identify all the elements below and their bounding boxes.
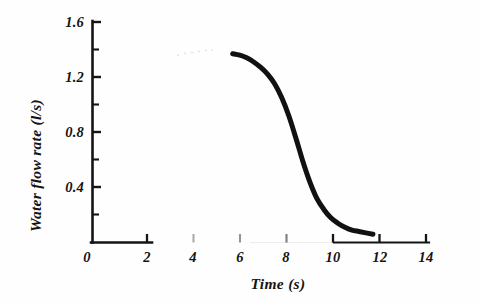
x-tick-label-12: 12: [373, 249, 388, 266]
y-axis-line-group: [93, 21, 102, 243]
y-tick-label-1.6: 1.6: [40, 14, 84, 31]
y-tick-label-1.2: 1.2: [40, 69, 84, 86]
x-tick-label-6: 6: [236, 249, 243, 266]
y-axis-title: Water flow rate (l/s): [27, 99, 45, 232]
scan-artifact-speckle: [177, 49, 213, 56]
x-tick-label-0: 0: [83, 249, 90, 266]
x-tick-label-4: 4: [189, 249, 196, 266]
x-tick-label-2: 2: [143, 249, 150, 266]
x-axis-title: Time (s): [251, 275, 306, 293]
x-tick-label-14: 14: [419, 249, 434, 266]
y-tick-label-0.8: 0.8: [40, 124, 84, 141]
x-tick-label-10: 10: [326, 249, 341, 266]
x-axis-line-group: [91, 234, 429, 243]
flow-rate-curve: [233, 54, 373, 235]
y-tick-label-0.4: 0.4: [40, 179, 84, 196]
x-tick-label-8: 8: [282, 249, 289, 266]
chart-figure: 1.6 1.2 0.8 0.4 0 2 4 6 8 10 12 14 Time …: [0, 0, 481, 306]
